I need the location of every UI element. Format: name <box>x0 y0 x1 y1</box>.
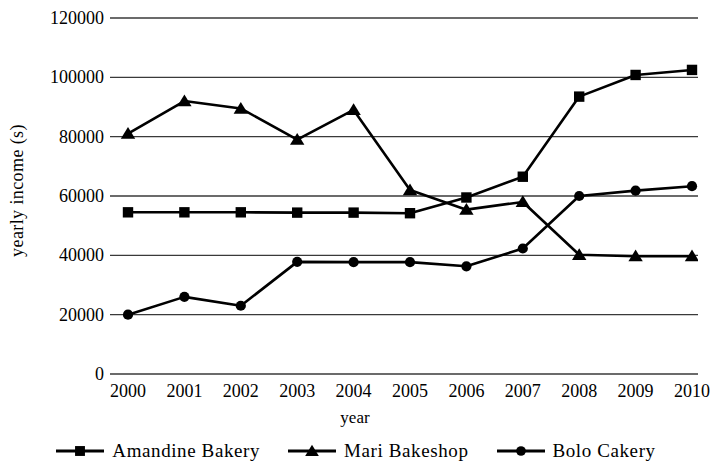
x-tick-label: 2001 <box>166 382 202 400</box>
legend-entry[interactable]: Mari Bakeshop <box>286 440 468 462</box>
legend-circle-marker-icon <box>495 441 547 461</box>
x-tick-label: 2007 <box>505 382 541 400</box>
data-point-marker <box>123 310 133 320</box>
x-axis-title: year <box>0 408 710 428</box>
data-point-marker <box>405 257 415 267</box>
x-tick-label: 2005 <box>392 382 428 400</box>
data-point-marker <box>461 261 471 271</box>
x-tick-label: 2000 <box>110 382 146 400</box>
data-point-marker <box>574 191 584 201</box>
data-point-marker <box>236 207 246 217</box>
y-tick-label: 80000 <box>59 128 104 146</box>
data-point-marker <box>403 183 417 195</box>
data-point-marker <box>123 207 133 217</box>
data-point-marker <box>631 186 641 196</box>
data-point-marker <box>687 65 697 75</box>
legend-entry[interactable]: Amandine Bakery <box>54 440 260 462</box>
series-line <box>128 186 692 314</box>
data-point-marker <box>687 181 697 191</box>
data-point-marker <box>177 94 191 106</box>
data-point-marker <box>292 257 302 267</box>
legend-label: Amandine Bakery <box>112 440 260 462</box>
data-point-marker <box>179 292 189 302</box>
legend-triangle-marker-icon <box>286 441 338 461</box>
data-point-marker <box>630 70 640 80</box>
chart-legend: Amandine BakeryMari BakeshopBolo Cakery <box>0 440 710 462</box>
legend-label: Mari Bakeshop <box>344 440 468 462</box>
y-tick-label: 0 <box>95 365 104 383</box>
data-point-marker <box>518 243 528 253</box>
data-point-marker <box>349 257 359 267</box>
y-axis-title-text: yearly income (s) <box>7 124 28 257</box>
data-point-marker <box>405 208 415 218</box>
x-tick-label: 2006 <box>448 382 484 400</box>
data-point-marker <box>346 103 360 115</box>
series-mari-bakeshop <box>121 94 698 261</box>
legend-label: Bolo Cakery <box>553 440 656 462</box>
line-chart-figure: yearly income (s) 0200004000060000800001… <box>0 0 710 470</box>
legend-entry[interactable]: Bolo Cakery <box>495 440 656 462</box>
y-tick-label: 100000 <box>50 68 104 86</box>
plot-svg <box>110 0 698 380</box>
series-line <box>128 101 692 256</box>
data-point-marker <box>121 127 135 139</box>
x-tick-label: 2010 <box>674 382 710 400</box>
y-tick-label: 20000 <box>59 306 104 324</box>
data-point-marker <box>348 207 358 217</box>
data-point-marker <box>518 172 528 182</box>
data-point-marker <box>236 301 246 311</box>
data-point-marker <box>292 207 302 217</box>
x-axis-title-text: year <box>340 408 369 427</box>
y-axis-tick-labels: 020000400006000080000100000120000 <box>26 0 104 470</box>
data-point-marker <box>179 207 189 217</box>
y-tick-label: 40000 <box>59 246 104 264</box>
data-point-marker <box>290 133 304 145</box>
y-tick-label: 120000 <box>50 9 104 27</box>
series-bolo-cakery <box>123 181 697 320</box>
y-tick-label: 60000 <box>59 187 104 205</box>
x-tick-label: 2004 <box>336 382 372 400</box>
data-point-marker <box>516 195 530 207</box>
gridlines <box>110 18 698 374</box>
x-tick-label: 2009 <box>618 382 654 400</box>
x-axis-tick-labels: 2000200120022003200420052006200720082009… <box>110 380 698 406</box>
legend-square-marker-icon <box>54 441 106 461</box>
x-tick-label: 2002 <box>223 382 259 400</box>
x-tick-label: 2008 <box>561 382 597 400</box>
x-tick-label: 2003 <box>279 382 315 400</box>
plot-area <box>110 0 698 380</box>
data-point-marker <box>461 192 471 202</box>
data-point-marker <box>574 91 584 101</box>
